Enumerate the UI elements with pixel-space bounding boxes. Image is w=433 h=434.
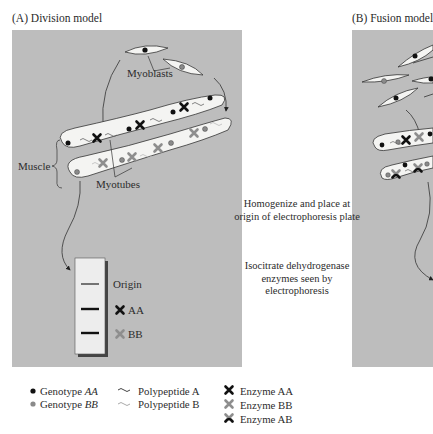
legend-polypeptide-a: Polypeptide A: [138, 384, 199, 397]
myotubes-label: Myotubes: [96, 178, 140, 190]
gel-origin-label: Origin: [113, 278, 142, 290]
fusion-myoblasts: [362, 45, 433, 135]
legend-genotype-aa: Genotype AA: [40, 384, 98, 397]
myoblast-cell: [125, 46, 168, 55]
gel-aa-label: AA: [128, 304, 144, 316]
legend-genotype-bb: Genotype BB: [40, 397, 98, 410]
homogenize-instruction: Homogenize and place at origin of electr…: [232, 198, 362, 223]
myoblasts-label: Myoblasts: [127, 67, 173, 79]
legend-enzyme-ab-icon: [226, 415, 233, 422]
legend-enzyme-aa: Enzyme AA: [240, 384, 293, 397]
legend-enzyme-bb-icon: [226, 401, 233, 408]
electrophoresis-gel: [75, 258, 105, 354]
division-model-illustration: [0, 0, 433, 434]
legend-genotype-bb-icon: [30, 401, 35, 406]
gel-bb-label: BB: [128, 328, 143, 340]
muscle-label: Muscle: [18, 160, 50, 172]
legend-genotype-aa-icon: [30, 388, 35, 393]
legend-polypeptide-a-icon: [118, 389, 130, 392]
legend-enzyme-aa-icon: [226, 387, 233, 394]
legend-polypeptide-b-icon: [118, 403, 130, 406]
legend-polypeptide-b: Polypeptide B: [138, 397, 199, 410]
legend-enzyme-bb: Enzyme BB: [240, 398, 292, 411]
isocitrate-enzymes-note: Isocitrate dehydrogenase enzymes seen by…: [232, 260, 362, 298]
legend-enzyme-ab: Enzyme AB: [240, 412, 292, 425]
